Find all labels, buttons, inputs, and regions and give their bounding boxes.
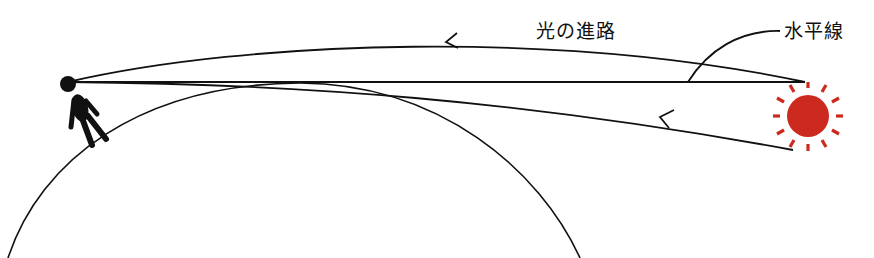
horizon-label: 水平線 <box>784 16 844 43</box>
actual-light-path <box>68 82 793 150</box>
light-path-label: 光の進路 <box>536 16 616 43</box>
refraction-diagram: 光の進路 水平線 <box>0 0 874 258</box>
arrow-left-icon <box>446 33 458 48</box>
observer-figure <box>60 76 106 145</box>
apparent-light-path <box>68 33 805 82</box>
sun-icon <box>773 82 843 151</box>
arrow-left-icon <box>660 110 674 128</box>
observer-head <box>60 76 76 92</box>
